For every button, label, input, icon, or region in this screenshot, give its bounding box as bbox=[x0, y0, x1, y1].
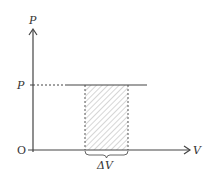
shaded-work-area bbox=[85, 85, 128, 150]
delta-v-label: ΔV bbox=[96, 159, 114, 172]
p-level-label: P bbox=[16, 79, 25, 92]
x-axis-label: V bbox=[193, 144, 202, 157]
origin-label: O bbox=[17, 144, 26, 157]
pv-diagram: P P O V ΔV bbox=[0, 0, 210, 181]
delta-v-brace bbox=[85, 151, 128, 158]
y-axis-label: P bbox=[28, 14, 37, 27]
